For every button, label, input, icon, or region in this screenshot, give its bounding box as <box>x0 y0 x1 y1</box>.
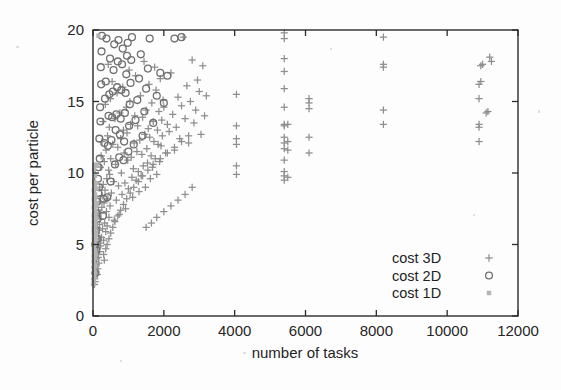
marker-plus <box>147 175 154 182</box>
marker-plus <box>281 68 288 75</box>
marker-circle <box>123 71 130 78</box>
marker-plus <box>125 185 132 192</box>
marker-plus <box>194 76 201 83</box>
marker-plus <box>201 112 208 119</box>
legend-marker-cost-3d <box>485 254 493 262</box>
x-tick-label: 0 <box>89 322 97 339</box>
y-tick-label: 15 <box>67 93 84 110</box>
marker-plus <box>153 171 160 178</box>
marker-plus <box>140 58 147 65</box>
chart-legend: cost 3Dcost 2Dcost 1D <box>392 250 493 301</box>
x-axis-title: number of tasks <box>252 344 359 361</box>
marker-plus <box>281 168 288 175</box>
marker-plus <box>183 82 190 89</box>
marker-circle <box>107 55 114 62</box>
marker-plus <box>475 138 482 145</box>
marker-circle <box>153 92 160 99</box>
marker-circle <box>171 35 178 42</box>
marker-plus <box>181 115 188 122</box>
marker-plus <box>103 147 110 154</box>
marker-plus <box>173 124 180 131</box>
marker-plus <box>143 145 150 152</box>
marker-plus <box>380 106 387 113</box>
marker-plus <box>143 224 150 231</box>
marker-plus <box>199 62 206 69</box>
marker-circle <box>124 52 131 59</box>
marker-plus <box>380 34 387 41</box>
marker-plus <box>187 98 194 105</box>
marker-circle <box>115 37 122 44</box>
marker-plus <box>475 95 482 102</box>
marker-plus <box>284 147 291 154</box>
marker-plus <box>158 116 165 123</box>
marker-circle <box>98 48 105 55</box>
x-tick-label: 8000 <box>360 322 393 339</box>
x-tick-label: 10000 <box>426 322 468 339</box>
marker-square <box>95 187 99 191</box>
marker-plus <box>233 162 240 169</box>
marker-plus <box>139 172 146 179</box>
marker-circle <box>137 51 144 58</box>
marker-circle <box>129 34 136 41</box>
marker-plus <box>104 241 111 248</box>
marker-plus <box>281 55 288 62</box>
marker-plus <box>477 62 484 69</box>
marker-plus <box>484 108 491 115</box>
marker-plus <box>167 202 174 209</box>
marker-circle <box>116 131 123 138</box>
marker-plus <box>233 122 240 129</box>
legend-marker-cost-1d <box>487 291 491 295</box>
y-tick-label: 10 <box>67 164 84 181</box>
marker-plus <box>148 99 155 106</box>
marker-plus <box>153 214 160 221</box>
marker-plus <box>185 139 192 146</box>
marker-plus <box>108 189 115 196</box>
marker-circle <box>97 64 104 71</box>
marker-plus <box>113 197 120 204</box>
marker-plus <box>174 94 181 101</box>
marker-circle <box>127 79 134 86</box>
x-tick-label: 12000 <box>497 322 539 339</box>
marker-square <box>94 215 98 219</box>
marker-circle <box>112 127 119 134</box>
marker-plus <box>185 132 192 139</box>
marker-plus <box>123 195 130 202</box>
marker-plus <box>160 208 167 215</box>
marker-circle <box>144 65 151 72</box>
marker-plus <box>164 121 171 128</box>
x-tick-label: 2000 <box>147 322 180 339</box>
marker-plus <box>169 111 176 118</box>
marker-circle <box>110 67 117 74</box>
marker-square <box>93 238 97 242</box>
marker-circle <box>128 57 135 64</box>
marker-plus <box>135 188 142 195</box>
legend-label-cost-3d: cost 3D <box>392 250 441 266</box>
marker-plus <box>305 149 312 156</box>
marker-plus <box>190 119 197 126</box>
marker-square <box>93 224 97 228</box>
marker-square <box>94 230 98 234</box>
marker-plus <box>181 191 188 198</box>
y-tick-label: 5 <box>76 236 84 253</box>
marker-plus <box>479 61 486 68</box>
marker-plus <box>196 88 203 95</box>
marker-plus <box>166 128 173 135</box>
marker-plus <box>485 254 493 262</box>
marker-plus <box>192 106 199 113</box>
marker-square <box>93 195 97 199</box>
marker-circle <box>119 45 126 52</box>
marker-circle <box>126 122 133 129</box>
marker-plus <box>178 102 185 109</box>
marker-plus <box>154 127 161 134</box>
marker-plus <box>380 121 387 128</box>
marker-plus <box>164 149 171 156</box>
marker-plus <box>305 134 312 141</box>
scatter-plot-figure: 02000400060008000100001200005101520 cost… <box>0 0 561 390</box>
marker-plus <box>233 91 240 98</box>
marker-plus <box>486 54 493 61</box>
legend-marker-cost-2d <box>486 272 493 279</box>
legend-label-cost-1d: cost 1D <box>392 285 441 301</box>
marker-square <box>93 252 97 256</box>
marker-plus <box>203 92 210 99</box>
marker-plus <box>233 171 240 178</box>
